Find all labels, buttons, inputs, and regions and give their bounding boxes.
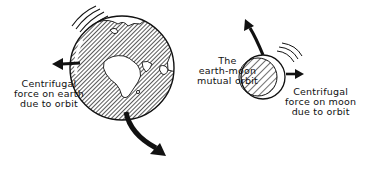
earth-globe: [70, 12, 176, 120]
earth-centrifugal-force-label: Centrifugal force on earth due to orbit: [14, 79, 84, 109]
moon-centrifugal-arrow: [286, 69, 304, 79]
earth-label-line-3: due to orbit: [14, 99, 84, 109]
mutual-orbit-label: The earth-moon mutual orbit: [197, 56, 258, 86]
moon-motion-lines: [277, 43, 302, 62]
moon-orbit-arrow: [244, 19, 263, 55]
moon-label-line-3: due to orbit: [285, 107, 356, 117]
orbit-label-line-3: mutual orbit: [197, 76, 258, 86]
moon-centrifugal-force-label: Centrifugal force on moon due to orbit: [285, 87, 356, 117]
